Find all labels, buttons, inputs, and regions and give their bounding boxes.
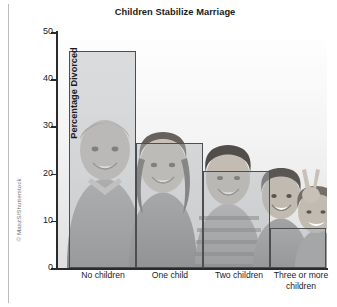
bar-two-children[interactable] bbox=[203, 171, 270, 268]
x-axis-labels: No children One child Two children Three… bbox=[57, 270, 327, 306]
x-label-two-children: Two children bbox=[201, 270, 277, 281]
y-tick-label: 40 bbox=[43, 73, 53, 83]
y-tick-label: 30 bbox=[43, 120, 53, 130]
bar-series bbox=[57, 32, 327, 268]
y-tick-label: 0 bbox=[48, 262, 53, 272]
x-label-no-children: No children bbox=[65, 270, 141, 281]
y-tick-label: 20 bbox=[43, 168, 53, 178]
bar-one-child[interactable] bbox=[136, 143, 203, 268]
copyright-credit: © MaszS/Shutterstock bbox=[15, 158, 22, 242]
plot-area: 0 10 20 30 40 50 Percentage Divorced bbox=[57, 32, 327, 268]
y-axis-title: Percentage Divorced bbox=[69, 28, 79, 158]
credit-rail: © MaszS/Shutterstock bbox=[0, 0, 18, 307]
y-tick-label: 50 bbox=[43, 26, 53, 36]
y-tick-label: 10 bbox=[43, 215, 53, 225]
x-label-three-or-more-children: Three or more children bbox=[270, 270, 332, 292]
bar-no-children[interactable] bbox=[69, 51, 136, 268]
x-label-one-child: One child bbox=[134, 270, 206, 281]
credit-divider bbox=[8, 4, 9, 303]
bar-three-or-more-children[interactable] bbox=[270, 228, 326, 268]
chart-title: Children Stabilize Marriage bbox=[20, 7, 330, 17]
chart-figure: © MaszS/Shutterstock Children Stabilize … bbox=[0, 0, 337, 307]
y-axis-line bbox=[56, 31, 58, 269]
